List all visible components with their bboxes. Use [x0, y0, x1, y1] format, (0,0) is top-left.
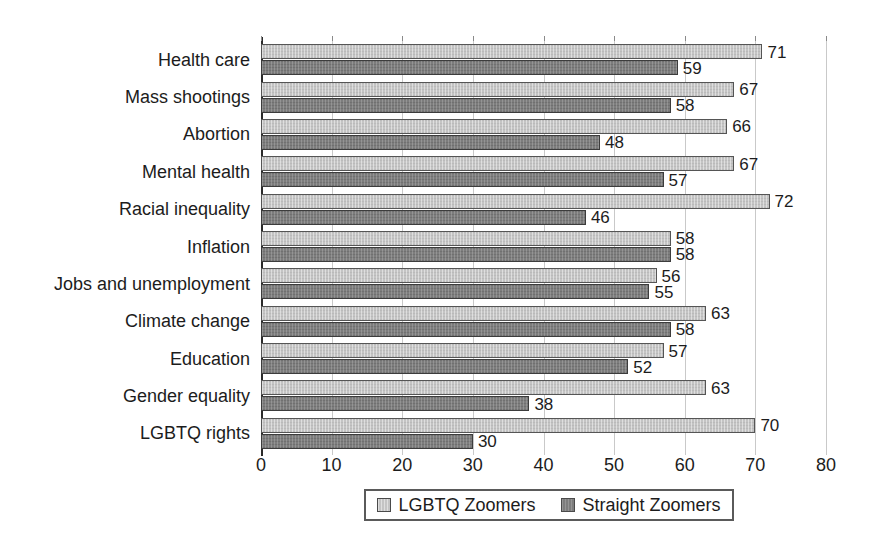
bar[interactable]: [261, 98, 671, 113]
category-label: Gender equality: [123, 387, 250, 405]
bar[interactable]: [261, 119, 727, 134]
bar-value-label: 57: [669, 343, 688, 360]
category-label: Health care: [158, 51, 250, 69]
bar-group: 5655: [261, 265, 826, 302]
bar[interactable]: [261, 343, 664, 358]
bar[interactable]: [261, 135, 600, 150]
bar-value-label: 72: [775, 193, 794, 210]
bar[interactable]: [261, 380, 706, 395]
bar-value-label: 30: [478, 433, 497, 450]
bar-group: 6648: [261, 116, 826, 153]
bar-value-label: 48: [605, 134, 624, 151]
bar-value-label: 66: [732, 118, 751, 135]
gridline-80: [826, 38, 827, 455]
legend-label: LGBTQ Zoomers: [398, 496, 535, 514]
bar-value-label: 55: [654, 284, 673, 301]
legend-swatch-icon: [377, 498, 391, 512]
bar[interactable]: [261, 359, 628, 374]
bar-value-label: 52: [633, 359, 652, 376]
bar[interactable]: [261, 44, 762, 59]
x-tick-label-50: 50: [604, 456, 624, 474]
bar-group: 5858: [261, 228, 826, 265]
x-tick-label-30: 30: [463, 456, 483, 474]
bar-value-label: 63: [711, 380, 730, 397]
bar[interactable]: [261, 231, 671, 246]
x-tick-label-60: 60: [675, 456, 695, 474]
bar-value-label: 58: [676, 321, 695, 338]
bar[interactable]: [261, 396, 529, 411]
bar-group: 6758: [261, 78, 826, 115]
bar[interactable]: [261, 172, 664, 187]
bar[interactable]: [261, 322, 671, 337]
legend-item[interactable]: LGBTQ Zoomers: [377, 496, 535, 514]
chart-legend: LGBTQ ZoomersStraight Zoomers: [364, 489, 734, 521]
legend-swatch-icon: [561, 498, 575, 512]
category-label: Education: [170, 350, 250, 368]
category-label: LGBTQ rights: [140, 424, 250, 442]
bar-value-label: 58: [676, 246, 695, 263]
bar[interactable]: [261, 418, 755, 433]
bar[interactable]: [261, 434, 473, 449]
x-tick-label-0: 0: [256, 456, 266, 474]
category-label: Inflation: [187, 238, 250, 256]
bar-group: 6338: [261, 377, 826, 414]
bar-group: 7030: [261, 415, 826, 452]
bar-value-label: 63: [711, 305, 730, 322]
bar[interactable]: [261, 60, 678, 75]
legend-item[interactable]: Straight Zoomers: [561, 496, 720, 514]
category-label: Climate change: [125, 312, 250, 330]
bar-value-label: 46: [591, 209, 610, 226]
bar[interactable]: [261, 247, 671, 262]
axis-tick-80: [826, 36, 827, 41]
bar-value-label: 57: [669, 172, 688, 189]
bar-value-label: 59: [683, 60, 702, 77]
x-tick-label-80: 80: [816, 456, 836, 474]
bar-group: 6358: [261, 303, 826, 340]
bar[interactable]: [261, 210, 586, 225]
bar-value-label: 67: [739, 81, 758, 98]
category-axis-labels: Health careMass shootingsAbortionMental …: [0, 41, 250, 452]
bar-value-label: 70: [760, 417, 779, 434]
bar[interactable]: [261, 156, 734, 171]
bar-group: 7159: [261, 41, 826, 78]
bar-value-label: 71: [767, 44, 786, 61]
x-tick-label-40: 40: [533, 456, 553, 474]
bar[interactable]: [261, 194, 770, 209]
x-tick-label-20: 20: [392, 456, 412, 474]
bar-value-label: 67: [739, 156, 758, 173]
category-label: Abortion: [183, 125, 250, 143]
x-tick-label-70: 70: [745, 456, 765, 474]
plot-area: 7159675866486757724658585655635857526338…: [261, 41, 826, 452]
bar[interactable]: [261, 306, 706, 321]
bar-group: 5752: [261, 340, 826, 377]
horizontal-bar-chart: Health careMass shootingsAbortionMental …: [0, 0, 882, 549]
category-label: Jobs and unemployment: [54, 275, 250, 293]
x-tick-label-10: 10: [322, 456, 342, 474]
category-label: Racial inequality: [119, 200, 250, 218]
bar-group: 7246: [261, 190, 826, 227]
bar[interactable]: [261, 268, 657, 283]
bar[interactable]: [261, 284, 649, 299]
bar-value-label: 38: [534, 396, 553, 413]
category-label: Mass shootings: [125, 88, 250, 106]
legend-label: Straight Zoomers: [582, 496, 720, 514]
bar-value-label: 58: [676, 97, 695, 114]
category-label: Mental health: [142, 163, 250, 181]
bar-group: 6757: [261, 153, 826, 190]
bar[interactable]: [261, 82, 734, 97]
